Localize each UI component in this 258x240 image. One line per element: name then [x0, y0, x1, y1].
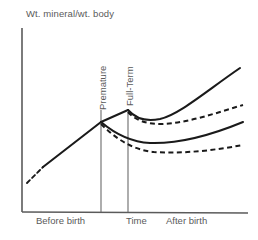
premature-label: Premature	[97, 66, 108, 110]
curve-premature-dashed	[101, 124, 243, 153]
full-term-label: Full-Term	[124, 66, 135, 106]
x-axis-label-before-birth: Before birth	[36, 215, 85, 226]
curve-to-full-term-peak	[101, 110, 128, 122]
chart-canvas	[0, 0, 258, 240]
curve-premature-solid	[101, 122, 243, 143]
x-axis	[22, 212, 248, 213]
mineral-accretion-chart: Wt. mineral/wt. body Premature Full-Term…	[0, 0, 258, 240]
y-axis-label: Wt. mineral/wt. body	[26, 8, 114, 19]
x-axis-label-time: Time	[126, 215, 147, 226]
x-axis-label-after-birth: After birth	[166, 215, 207, 226]
curve-in-utero-accretion	[43, 122, 101, 167]
curve-full-term-solid	[128, 68, 240, 120]
curve-full-term-dashed	[128, 105, 243, 124]
curve-extrapolated-accretion	[27, 167, 43, 183]
